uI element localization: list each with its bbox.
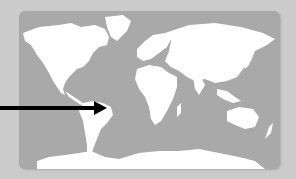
arrow-head-icon — [94, 101, 107, 115]
pointer-arrow — [0, 0, 296, 179]
